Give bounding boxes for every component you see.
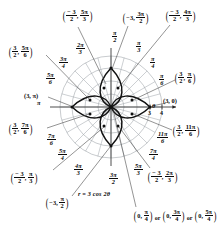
angle-tick-pi-over-2: π2 — [112, 30, 117, 44]
angle-tick-4pi-over-3: 4π3 — [74, 163, 83, 177]
angle-tick-pi-over-3: π3 — [136, 40, 141, 54]
angle-tick-3pi-over-2: 3π2 — [109, 172, 118, 186]
axis-label-pi: π — [37, 100, 41, 106]
polar-rose-figure: π2 π3 π4 π6 2π3 3π4 5π6 7π6 5π4 4π3 3π2 … — [0, 0, 222, 232]
radial-tick-label-3: 3 — [148, 110, 151, 116]
angle-tick-5pi-over-6: 5π6 — [46, 72, 55, 86]
point-label-3-0: (3, 0) — [163, 98, 177, 104]
angle-tick-3pi-over-4: 3π4 — [59, 56, 68, 70]
angle-tick-5pi-over-4: 5π4 — [58, 148, 67, 162]
angle-tick-pi-over-6: π6 — [159, 73, 164, 87]
point-label-neg3halves-pi-3: ( − 32, π3 ) — [10, 171, 38, 185]
axis-label-theta: θ — [152, 103, 155, 109]
point-label-neg3halves-2pi-3: ( − 32, 2π3 ) — [147, 170, 178, 184]
angle-tick-pi-over-4: π4 — [150, 56, 155, 70]
angle-tick-11pi-over-6: 11π6 — [157, 131, 168, 145]
point-label-3halves-5pi-6: ( 32, 5π6 ) — [8, 45, 34, 59]
point-label-3halves-7pi-6: ( 32, 7π6 ) — [8, 122, 34, 136]
note-conjunction-2: or — [185, 215, 194, 221]
angle-tick-7pi-over-6: 7π6 — [47, 133, 56, 147]
polar-plot-svg — [0, 0, 222, 232]
equation-label: r = 3 cos 2θ — [78, 191, 110, 197]
point-label-neg3-3pi-2: ( −3, 3π2 ) — [122, 11, 149, 25]
point-label-neg3-pi-2: ( −3, π2 ) — [45, 196, 69, 210]
point-label-3-pi: (3, π) — [24, 93, 38, 99]
point-label-3halves-pi-6: ( 32, π6 ) — [174, 71, 197, 85]
zero-points-note: ( 0, π4 )or( 0, 3π4 )or( 0, 5π4 ) — [133, 209, 217, 222]
point-label-neg3halves-4pi-3: ( − 32, 4π3 ) — [165, 9, 196, 23]
note-conjunction-1: or — [153, 215, 162, 221]
point-label-3halves-11pi-6: ( 32, 11π6 ) — [172, 124, 201, 138]
point-label-neg3halves-5pi-3: ( − 32, 5π3 ) — [62, 9, 93, 23]
angle-tick-5pi-over-3: 5π3 — [134, 163, 143, 177]
angle-tick-7pi-over-4: 7π4 — [149, 148, 158, 162]
radial-tick-label-4: 4 — [160, 110, 163, 116]
angle-tick-2pi-over-3: 2π3 — [76, 42, 85, 56]
